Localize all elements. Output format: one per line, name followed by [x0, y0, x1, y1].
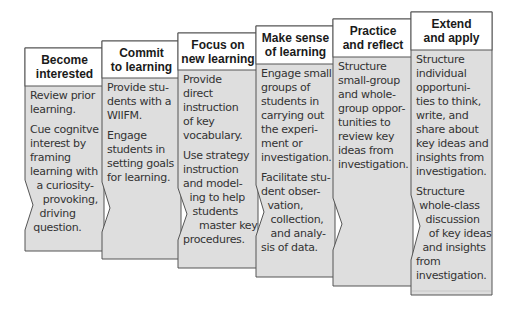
- column-header: Extend and apply: [411, 12, 492, 50]
- column-header: Practice and reflect: [333, 19, 413, 57]
- column-practice-and-reflect: Practice and reflect Structure small-gro…: [333, 19, 413, 286]
- step-text: Engage small groups of students in carry…: [261, 67, 331, 165]
- column-body: Provide stu- dents with a WIIFM. Engage …: [102, 78, 181, 191]
- column-title: Make sense of learning: [262, 31, 329, 59]
- column-header: Make sense of learning: [256, 26, 335, 64]
- step-text: Provide direct instruction of key vocabu…: [183, 73, 254, 143]
- step-text: Structure small-group and whole- group o…: [338, 60, 409, 172]
- column-title: Become interested: [36, 53, 93, 81]
- column-title: Practice and reflect: [343, 24, 404, 52]
- column-body: Structure individual opportuni- ties to …: [411, 50, 492, 289]
- step-text: Engage students in setting goals for lea…: [107, 129, 177, 185]
- column-commit-to-learning: Commit to learning Provide stu- dents wi…: [102, 41, 181, 259]
- column-body: Structure small-group and whole- group o…: [333, 57, 413, 178]
- step-text: Structure whole-class discussion of key …: [416, 185, 488, 283]
- column-make-sense-of-learning: Make sense of learning Engage small grou…: [256, 26, 335, 277]
- step-text: Facilitate stu- dent obser- vation, coll…: [261, 171, 331, 255]
- column-body: Review prior learning. Cue cognitve inte…: [25, 86, 104, 241]
- step-text: Use strategy instruction and model- ing …: [183, 149, 254, 247]
- column-header: Focus on new learning: [178, 33, 258, 70]
- step-text: Structure individual opportuni- ties to …: [416, 53, 488, 179]
- step-text: Provide stu- dents with a WIIFM.: [107, 81, 177, 123]
- column-body: Engage small groups of students in carry…: [256, 64, 335, 261]
- column-title: Focus on new learning: [181, 38, 254, 66]
- column-header: Commit to learning: [102, 41, 181, 78]
- column-body: Provide direct instruction of key vocabu…: [178, 70, 258, 253]
- column-focus-on-new-learning: Focus on new learning Provide direct ins…: [178, 33, 258, 268]
- step-text: Review prior learning.: [30, 89, 100, 117]
- step-text: Cue cognitve interest by framing learnin…: [30, 123, 100, 235]
- learning-cycle-diagram: Become interested Review prior learning.…: [0, 0, 514, 309]
- column-title: Extend and apply: [423, 17, 479, 45]
- column-extend-and-apply: Extend and apply Structure individual op…: [411, 12, 492, 295]
- column-become-interested: Become interested Review prior learning.…: [25, 48, 104, 251]
- column-header: Become interested: [25, 48, 104, 86]
- column-title: Commit to learning: [111, 46, 172, 74]
